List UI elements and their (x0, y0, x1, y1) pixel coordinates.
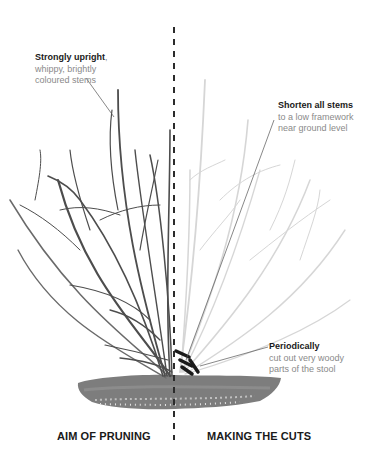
leader-lines (86, 78, 274, 366)
annotation-upright-line1: whippy, brightly (35, 64, 108, 76)
annotation-shorten: Shorten all stems to a low framework nea… (278, 100, 354, 135)
annotation-periodically: Periodically cut out very woody parts of… (269, 341, 344, 376)
soil-mound (78, 375, 281, 409)
mature-stems (10, 90, 172, 378)
section-title-aim: AIM OF PRUNING (57, 430, 151, 442)
annotation-shorten-title: Shorten all stems (278, 100, 354, 112)
annotation-periodically-title: Periodically (269, 341, 344, 353)
annotation-upright: Strongly upright, whippy, brightly colou… (35, 52, 108, 87)
annotation-periodically-line2: parts of the stool (269, 364, 344, 376)
annotation-shorten-line1: to a low framework (278, 112, 354, 124)
annotation-periodically-line1: cut out very woody (269, 353, 344, 365)
annotation-upright-title: Strongly upright (35, 52, 105, 62)
annotation-upright-line2: coloured stems (35, 75, 108, 87)
section-title-cuts: MAKING THE CUTS (207, 430, 311, 442)
annotation-shorten-line2: near ground level (278, 123, 354, 135)
